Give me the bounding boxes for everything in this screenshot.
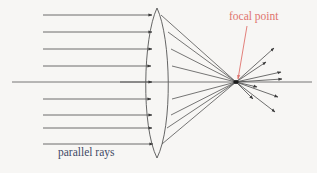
- focal-point-pointer-arrow: [238, 26, 247, 79]
- refracted-ray: [168, 32, 236, 82]
- diverging-ray: [236, 82, 278, 97]
- lens-left-surface: [146, 8, 157, 158]
- biconvex-lens: [146, 8, 169, 158]
- parallel-rays-label: parallel rays: [58, 147, 115, 159]
- focal-point-label: focal point: [229, 11, 279, 23]
- optics-diagram: focal point parallel rays: [0, 0, 317, 173]
- refracted-ray: [172, 66, 236, 82]
- diverging-ray: [236, 48, 274, 82]
- lens-right-surface: [157, 8, 168, 158]
- refracted-ray: [161, 15, 236, 82]
- refracted-ray: [171, 82, 236, 115]
- refracted-ray: [167, 82, 236, 128]
- incoming-parallel-rays-group: [43, 15, 153, 144]
- ray-diagram-canvas: [0, 0, 317, 173]
- refracted-ray: [171, 49, 236, 82]
- diverging-ray: [236, 82, 253, 99]
- refracted-ray: [162, 82, 236, 144]
- refracted-converging-rays-group: [161, 15, 236, 144]
- diverging-rays-group: [236, 48, 282, 112]
- focal-point-marker: [233, 80, 238, 84]
